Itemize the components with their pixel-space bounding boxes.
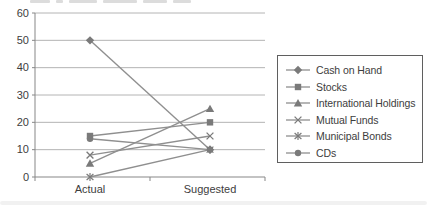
series-line [90,150,210,177]
chart-figure: 0102030405060ActualSuggested Cash on Han… [0,0,427,205]
legend-item-mutual-funds: Mutual Funds [285,112,418,129]
series-line [90,109,210,164]
y-tick-label: 30 [17,89,29,101]
x-marker-icon [285,114,311,126]
legend-label: CDs [316,147,336,159]
diamond-marker-icon [285,64,311,76]
square-marker-icon [207,119,213,125]
x-category-label: Suggested [184,183,237,195]
legend-label: Municipal Bonds [316,130,392,142]
asterisk-marker-icon [285,130,311,142]
y-tick-label: 50 [17,34,29,46]
x-category-label: Actual [75,183,106,195]
y-tick-label: 40 [17,61,29,73]
legend-item-municipal-bonds: Municipal Bonds [285,128,418,145]
square-marker-icon [295,84,301,90]
series-line [90,136,210,155]
circle-marker-icon [207,146,213,152]
y-tick-label: 60 [17,7,29,19]
y-tick-label: 10 [17,143,29,155]
legend-label: Mutual Funds [316,114,378,126]
circle-marker-icon [87,136,93,142]
y-tick-label: 20 [17,116,29,128]
triangle-marker-icon [206,105,214,112]
legend-item-cds: CDs [285,145,418,162]
legend-label: Stocks [316,81,347,93]
diamond-marker-icon [294,66,302,74]
series-line [90,139,210,150]
legend-item-stocks: Stocks [285,79,418,96]
legend-item-cash-on-hand: Cash on Hand [285,62,418,79]
circle-marker-icon [295,150,301,156]
chart-legend: Cash on Hand Stocks International Holdin… [277,55,423,163]
legend-item-international-holdings: International Holdings [285,95,418,112]
legend-label: International Holdings [316,97,415,109]
y-tick-label: 0 [23,171,29,183]
page-artifact-band [0,201,427,205]
legend-label: Cash on Hand [316,64,382,76]
circle-marker-icon [285,147,311,159]
square-marker-icon [285,81,311,93]
triangle-marker-icon [285,97,311,109]
triangle-marker-icon [86,159,94,166]
